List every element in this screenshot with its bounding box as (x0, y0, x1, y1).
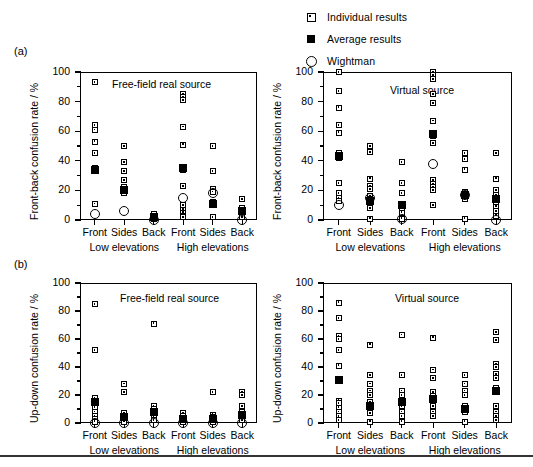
x-axis-tick (94, 219, 95, 225)
y-axis-tick-label: 100 (44, 65, 70, 77)
data-point-average (179, 415, 187, 423)
data-point-average (91, 166, 99, 174)
data-point-individual (239, 392, 245, 398)
data-point-individual (336, 122, 342, 128)
data-point-average (335, 376, 343, 384)
plot-frame (323, 283, 512, 423)
data-point-individual (493, 176, 499, 182)
y-axis-tick-label: 60 (44, 332, 70, 344)
data-point-individual (336, 69, 342, 75)
x-axis-category-label: Back (218, 429, 266, 441)
legend-label: Individual results (327, 11, 407, 23)
data-point-individual (367, 392, 373, 398)
data-point-individual (462, 156, 468, 162)
data-point-individual (210, 143, 216, 149)
data-point-wightman (149, 418, 159, 428)
y-axis-tick (318, 101, 324, 102)
data-point-individual (336, 88, 342, 94)
y-axis-tick (318, 71, 324, 72)
data-point-individual (336, 347, 342, 353)
y-axis-label: Up-down confusion rate / % (271, 294, 283, 423)
y-axis-tick-label: 20 (44, 388, 70, 400)
y-axis-minor-tick (320, 352, 324, 353)
y-axis-tick-label: 80 (287, 304, 313, 316)
y-axis-minor-tick (77, 116, 81, 117)
x-axis-category-label: Back (472, 226, 520, 238)
data-point-individual (121, 389, 127, 395)
x-axis-tick (338, 219, 339, 225)
data-point-individual (399, 159, 405, 165)
data-point-individual (92, 201, 98, 207)
open-square-dot-icon (303, 13, 319, 22)
data-point-individual (399, 372, 405, 378)
y-axis-tick (75, 190, 81, 191)
data-point-individual (180, 214, 186, 220)
y-axis-tick-label: 80 (44, 95, 70, 107)
y-axis-tick-label: 40 (287, 154, 313, 166)
data-point-individual (462, 381, 468, 387)
data-point-average (492, 387, 500, 395)
data-point-average (398, 201, 406, 209)
data-point-individual (92, 301, 98, 307)
data-point-individual (367, 381, 373, 387)
data-point-individual (336, 315, 342, 321)
y-axis-tick (318, 394, 324, 395)
y-axis-tick-label: 0 (44, 213, 70, 225)
data-point-wightman (178, 193, 188, 203)
data-point-wightman (397, 214, 407, 224)
x-axis-group-label: High elevations (420, 241, 510, 253)
y-axis-minor-tick (77, 175, 81, 176)
y-axis-minor-tick (320, 205, 324, 206)
data-point-individual (430, 202, 436, 208)
y-axis-minor-tick (77, 408, 81, 409)
data-point-individual (180, 183, 186, 189)
data-point-individual (121, 143, 127, 149)
footer-rule (0, 455, 533, 457)
data-point-average (366, 402, 374, 410)
data-point-individual (210, 214, 216, 220)
legend-item-average: Average results (303, 30, 407, 48)
data-point-average (209, 415, 217, 423)
data-point-individual (180, 124, 186, 130)
y-axis-tick (318, 310, 324, 311)
data-point-individual (180, 142, 186, 148)
data-point-average (492, 195, 500, 203)
x-axis-category-label: Back (218, 226, 266, 238)
filled-square-icon (303, 35, 319, 43)
data-point-individual (367, 149, 373, 155)
data-point-wightman (334, 200, 344, 210)
legend-label: Average results (327, 33, 401, 45)
data-point-wightman (90, 209, 100, 219)
y-axis-tick-label: 100 (287, 65, 313, 77)
y-axis-tick-label: 20 (44, 183, 70, 195)
data-point-individual (210, 389, 216, 395)
data-point-individual (430, 91, 436, 97)
y-axis-tick (75, 394, 81, 395)
data-point-individual (336, 300, 342, 306)
data-point-individual (493, 417, 499, 423)
y-axis-tick (75, 338, 81, 339)
data-point-individual (121, 177, 127, 183)
plot-title: Free-field real source (112, 78, 211, 90)
data-point-individual (430, 100, 436, 106)
data-point-wightman (90, 418, 100, 428)
y-axis-label: Front-back confusion rate / % (271, 83, 283, 220)
panel-tag-b: (b) (14, 258, 27, 270)
data-point-individual (336, 130, 342, 136)
y-axis-tick-label: 40 (287, 360, 313, 372)
data-point-wightman (428, 159, 438, 169)
data-point-average (461, 405, 469, 413)
y-axis-minor-tick (320, 116, 324, 117)
data-point-individual (493, 337, 499, 343)
data-point-average (429, 395, 437, 403)
data-point-individual (121, 168, 127, 174)
data-point-individual (367, 419, 373, 425)
plot-frame (80, 283, 257, 423)
data-point-individual (493, 150, 499, 156)
y-axis-tick (75, 282, 81, 283)
data-point-average (120, 186, 128, 194)
data-point-individual (92, 79, 98, 85)
y-axis-minor-tick (320, 296, 324, 297)
x-axis-tick (433, 422, 434, 428)
data-point-individual (462, 419, 468, 425)
